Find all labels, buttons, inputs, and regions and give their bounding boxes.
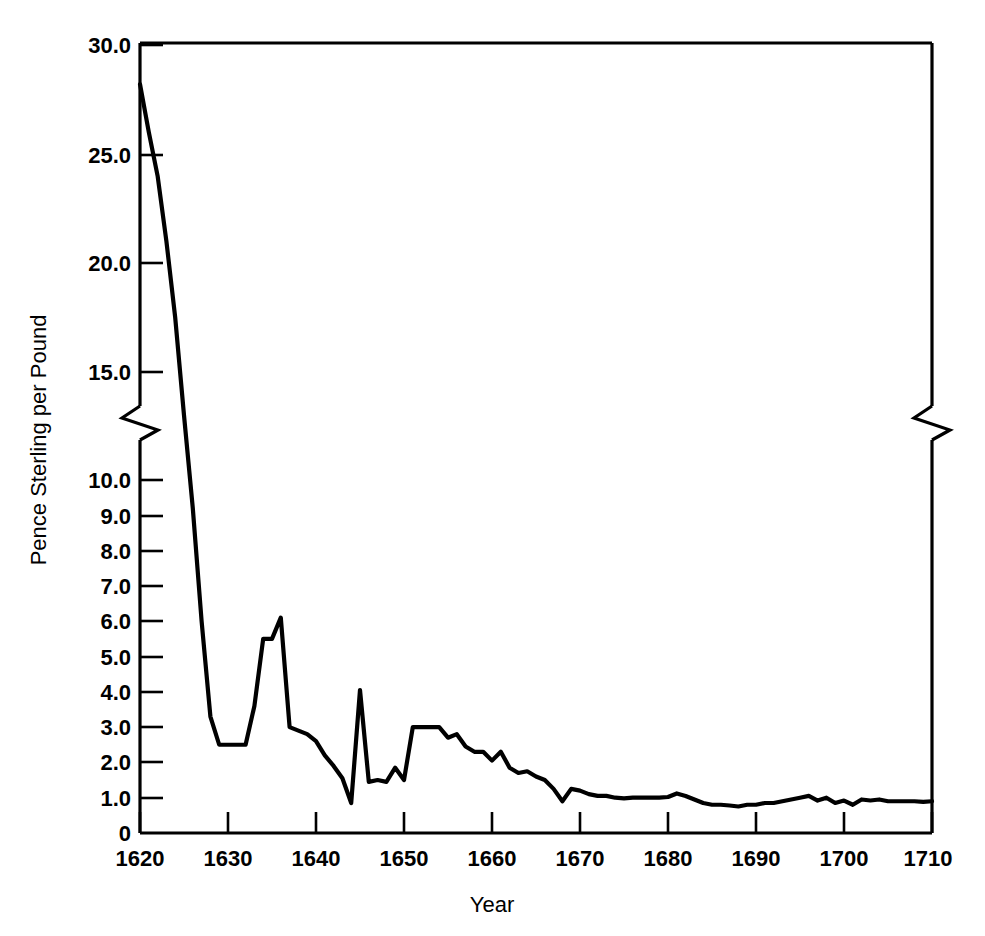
plot-frame bbox=[140, 43, 932, 833]
y-tick-label-25: 25.0 bbox=[88, 143, 131, 168]
y-axis-break-icon bbox=[122, 406, 158, 440]
y-tick-label-9: 9.0 bbox=[100, 504, 131, 529]
data-line-tobacco-price bbox=[140, 84, 932, 806]
chart-figure: 0 1.0 2.0 3.0 4.0 5.0 6.0 7.0 8.0 9.0 10… bbox=[0, 0, 985, 936]
data-series-group bbox=[140, 84, 932, 806]
x-axis-ticks bbox=[140, 812, 932, 833]
y-tick-label-4: 4.0 bbox=[100, 680, 131, 705]
y-axis-title: Pence Sterling per Pound bbox=[26, 315, 51, 566]
y-tick-label-30: 30.0 bbox=[88, 33, 131, 58]
x-axis-title: Year bbox=[470, 892, 514, 917]
x-tick-label-1690: 1690 bbox=[732, 846, 781, 871]
line-chart: 0 1.0 2.0 3.0 4.0 5.0 6.0 7.0 8.0 9.0 10… bbox=[0, 0, 985, 936]
x-tick-label-1670: 1670 bbox=[556, 846, 605, 871]
y-tick-label-8: 8.0 bbox=[100, 539, 131, 564]
x-axis-tick-labels: 1620 1630 1640 1650 1660 1670 1680 1690 … bbox=[116, 846, 953, 871]
x-tick-label-1640: 1640 bbox=[292, 846, 341, 871]
y-axis-tick-labels: 0 1.0 2.0 3.0 4.0 5.0 6.0 7.0 8.0 9.0 10… bbox=[88, 33, 131, 846]
x-tick-label-1630: 1630 bbox=[204, 846, 253, 871]
y-tick-label-15: 15.0 bbox=[88, 360, 131, 385]
y-tick-label-20: 20.0 bbox=[88, 251, 131, 276]
y-axis-break-icon-right bbox=[914, 406, 950, 440]
x-tick-label-1700: 1700 bbox=[820, 846, 869, 871]
x-tick-label-1620: 1620 bbox=[116, 846, 165, 871]
axis-break-marks bbox=[122, 406, 950, 440]
x-tick-label-1710: 1710 bbox=[904, 846, 953, 871]
y-tick-label-7: 7.0 bbox=[100, 574, 131, 599]
x-tick-label-1650: 1650 bbox=[380, 846, 429, 871]
y-tick-label-3: 3.0 bbox=[100, 715, 131, 740]
y-tick-label-10: 10.0 bbox=[88, 468, 131, 493]
y-tick-label-6: 6.0 bbox=[100, 609, 131, 634]
y-tick-label-2: 2.0 bbox=[100, 750, 131, 775]
y-tick-label-1: 1.0 bbox=[100, 786, 131, 811]
y-tick-label-0: 0 bbox=[119, 821, 131, 846]
y-tick-label-5: 5.0 bbox=[100, 645, 131, 670]
x-tick-label-1660: 1660 bbox=[468, 846, 517, 871]
x-tick-label-1680: 1680 bbox=[644, 846, 693, 871]
